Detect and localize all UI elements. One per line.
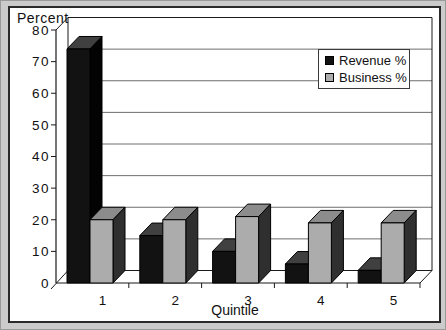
bar-business-q1 xyxy=(90,220,113,283)
bar-side-business-q2 xyxy=(186,207,198,283)
floor-right-diagonal xyxy=(420,271,432,284)
bar-side-business-q1 xyxy=(113,207,125,283)
legend-label-business: Business % xyxy=(339,70,407,85)
y-tick-label-40: 40 xyxy=(32,149,50,164)
bar-revenue-q3 xyxy=(213,251,236,283)
legend-label-revenue: Revenue % xyxy=(339,53,406,68)
bar-revenue-q5 xyxy=(358,270,381,283)
bar-business-q2 xyxy=(163,220,186,283)
y-tick-label-20: 20 xyxy=(32,213,50,228)
bar-side-business-q4 xyxy=(331,210,343,283)
y-axis-title: Percent xyxy=(17,10,69,26)
page-background: 0102030405060708012345 Percent Revenue %… xyxy=(0,0,446,330)
bar-business-q5 xyxy=(381,223,404,283)
floor-left-diagonal xyxy=(51,271,68,290)
legend: Revenue % Business % xyxy=(318,49,410,89)
legend-item-revenue: Revenue % xyxy=(325,53,405,68)
bar-revenue-q2 xyxy=(140,236,163,283)
y-tick-label-50: 50 xyxy=(32,118,50,133)
y-tick-label-30: 30 xyxy=(32,181,50,196)
x-axis-title: Quintile xyxy=(50,302,420,318)
bar-side-business-q5 xyxy=(404,210,416,283)
y-tick-label-60: 60 xyxy=(32,86,50,101)
y-tick-label-0: 0 xyxy=(41,276,50,291)
y-tick-label-10: 10 xyxy=(32,244,50,259)
revenue-swatch-icon xyxy=(325,56,334,65)
bar-side-business-q3 xyxy=(259,204,271,283)
bar-revenue-q4 xyxy=(285,264,308,283)
legend-item-business: Business % xyxy=(325,70,405,85)
chart-box: 0102030405060708012345 Percent Revenue %… xyxy=(8,6,441,323)
bar-revenue-q1 xyxy=(67,49,90,283)
business-swatch-icon xyxy=(325,73,334,82)
bar-business-q4 xyxy=(308,223,331,283)
y-tick-label-70: 70 xyxy=(32,54,50,69)
bar-business-q3 xyxy=(236,217,259,283)
